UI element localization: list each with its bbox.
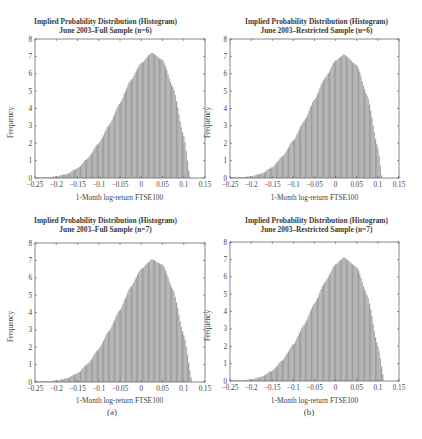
histogram-bar <box>62 379 63 382</box>
histogram-bar <box>360 77 361 178</box>
histogram-bar <box>86 365 87 382</box>
histogram-bar <box>257 378 258 381</box>
histogram-bar <box>160 264 161 382</box>
histogram-bar <box>365 93 366 178</box>
histogram-bar <box>324 282 325 381</box>
histogram-bar <box>278 364 279 381</box>
histogram-bar <box>150 260 151 382</box>
histogram-bar <box>189 371 190 382</box>
histogram-bar <box>381 175 382 178</box>
histogram-bar <box>325 281 326 381</box>
histogram-bar <box>340 57 341 178</box>
y-tick-label: 3 <box>28 122 32 130</box>
histogram-bar <box>371 317 372 381</box>
histogram-bar <box>328 73 329 178</box>
histogram-bar <box>374 132 375 178</box>
histogram-bar <box>181 128 182 178</box>
histogram-bar <box>378 156 379 178</box>
histogram-bar <box>261 377 262 381</box>
histogram-bar <box>265 375 266 381</box>
histogram-bar <box>84 367 85 382</box>
histogram-bar <box>380 166 381 178</box>
histogram-bar <box>362 81 363 178</box>
histogram-bar <box>357 66 358 178</box>
histogram-bar <box>113 118 114 178</box>
histogram-bar <box>161 60 162 178</box>
histogram-bar <box>333 268 334 381</box>
histogram-bar <box>322 287 323 381</box>
histogram-bar <box>336 60 337 178</box>
histogram-bar <box>143 61 144 178</box>
histogram-bar <box>323 284 324 381</box>
histogram-bar <box>290 143 291 178</box>
histogram-bar <box>135 74 136 178</box>
x-tick-label: 0 <box>139 385 143 393</box>
histogram-bar <box>97 350 98 382</box>
histogram-bar <box>188 363 189 382</box>
x-tick-label: −0.2 <box>245 384 258 392</box>
histogram-bar <box>302 123 303 178</box>
x-tick-label: 0.05 <box>156 385 169 393</box>
histogram-bar <box>148 262 149 382</box>
histogram-bar <box>277 162 278 178</box>
y-tick-label: 4 <box>223 308 227 316</box>
histogram-bar <box>180 121 181 178</box>
histogram-bar <box>260 377 261 381</box>
histogram-bar <box>96 352 97 382</box>
histogram-bar <box>87 158 88 178</box>
histogram-bar <box>80 371 81 382</box>
x-tick-label: 0.15 <box>199 181 212 189</box>
histogram-bar <box>173 292 174 382</box>
histogram-bar <box>371 118 372 178</box>
histogram-bar <box>313 304 314 381</box>
histogram-bar <box>336 264 337 381</box>
histogram-bar <box>62 175 63 178</box>
histogram-bar <box>307 318 308 381</box>
x-tick-label: 0.05 <box>350 384 363 392</box>
histogram-bar <box>150 53 151 178</box>
x-tick-label: 0.1 <box>179 181 188 189</box>
histogram-bar <box>67 174 68 178</box>
histogram-bar <box>290 347 291 381</box>
histogram-bar <box>292 346 293 381</box>
histogram-bar <box>356 267 357 381</box>
histogram-bar <box>277 365 278 381</box>
histogram-bar <box>265 172 266 178</box>
histogram-bar <box>293 345 294 381</box>
histogram-bar <box>335 265 336 381</box>
histogram-bar <box>155 261 156 382</box>
histogram-bar <box>88 363 89 382</box>
histogram-bar <box>147 57 148 178</box>
histogram-bar <box>133 76 134 178</box>
histogram-bar <box>365 293 366 381</box>
histogram-bar <box>75 374 76 382</box>
histogram-bar <box>186 346 187 382</box>
histogram-bar <box>90 156 91 178</box>
histogram-bar <box>126 295 127 382</box>
histogram-bar <box>158 263 159 382</box>
histogram-panel-restricted-n6: Implied Probability Distribution (Histog… <box>211 0 422 200</box>
y-axis-label: Frequency <box>6 107 15 138</box>
histogram-bar <box>73 171 74 178</box>
histogram-bar <box>109 330 110 382</box>
histogram-bar <box>64 379 65 382</box>
histogram-bar <box>169 281 170 382</box>
histogram-bar <box>110 123 111 178</box>
histogram-bar <box>346 259 347 381</box>
histogram-bar <box>124 95 125 178</box>
histogram-bar <box>319 292 320 381</box>
histogram-bar <box>255 378 256 381</box>
histogram-bar <box>67 378 68 382</box>
histogram-bar <box>63 379 64 382</box>
histogram-bar <box>299 129 300 178</box>
histogram-bar <box>382 374 383 381</box>
x-tick-label: −0.1 <box>92 385 105 393</box>
histogram-bars <box>36 53 190 178</box>
histogram-bar <box>127 292 128 382</box>
histogram-bar <box>116 109 117 178</box>
histogram-bar <box>339 58 340 178</box>
histogram-bar <box>102 138 103 178</box>
x-tick-label: −0.25 <box>222 384 239 392</box>
histogram-bar <box>90 362 91 382</box>
x-tick-label: −0.05 <box>112 385 129 393</box>
